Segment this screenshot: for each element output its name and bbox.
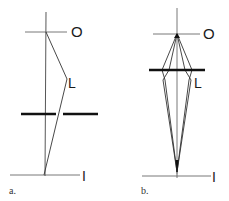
optics-diagram: O L I a. O L I b.: [0, 0, 229, 201]
ray-inner-right-b: [177, 34, 191, 172]
image-label-b: I: [212, 169, 216, 185]
object-label-b: O: [203, 25, 215, 42]
ray-outer-left-b: [162, 34, 177, 172]
object-label-a: O: [71, 23, 83, 40]
optical-axis-a: [45, 12, 46, 176]
lens-label-b: L: [194, 75, 202, 91]
caption-a: a.: [9, 185, 16, 196]
ray-outer-right-b: [177, 34, 192, 172]
ray-path-a: [44, 32, 67, 175]
ray-inner-left-b: [163, 34, 177, 172]
caption-b: b.: [141, 185, 149, 196]
lens-label-a: L: [68, 75, 76, 91]
image-label-a: I: [82, 168, 86, 184]
diagram-b: O L I b.: [141, 8, 216, 196]
diagram-a: O L I a.: [9, 12, 98, 196]
